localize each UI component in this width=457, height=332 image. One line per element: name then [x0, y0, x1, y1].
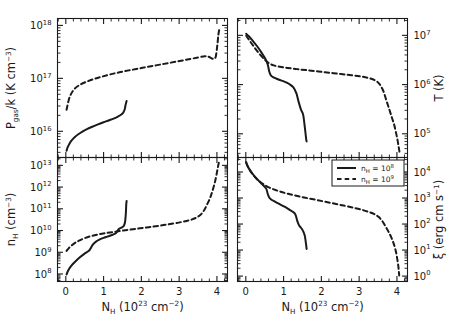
panel-density-ytick-label: 109 — [34, 246, 51, 258]
ylabel-density: nH (cm−3) — [4, 193, 20, 246]
panel-ionization-xtick-label: 2 — [318, 286, 324, 297]
panel-ionization-xtick-label: 4 — [394, 286, 400, 297]
panel-density-xtick-label: 3 — [176, 286, 182, 297]
panel-temperature-series-group — [246, 34, 399, 153]
panel-pressure-ytick-label: 1018 — [30, 19, 51, 31]
panel-pressure-series-2-dashed — [67, 30, 220, 110]
panel-ionization-ytick-label: 103 — [414, 191, 431, 203]
panel-density-series-2-dashed — [67, 161, 220, 251]
panel-pressure-x-ticks — [58, 19, 224, 158]
panel-density-ytick-label: 1012 — [30, 180, 51, 192]
panel-ionization-ytick-label: 101 — [414, 243, 431, 255]
ylabel-pressure: Pgas/k (K cm−3) — [4, 47, 20, 129]
panel-density: 108109101010111012101301234 — [30, 158, 227, 297]
panel-density-series-1-solid — [67, 201, 127, 275]
panel-pressure-y-ticks — [58, 25, 228, 152]
four-panel-figure: 1016101710181051061071081091010101110121… — [0, 0, 457, 332]
panel-density-xtick-label: 2 — [138, 286, 144, 297]
panel-pressure-series-group — [67, 30, 220, 151]
ylabel-temperature: T (K) — [432, 74, 446, 102]
panel-pressure-ytick-label: 1017 — [30, 72, 51, 84]
panel-density-x-ticks — [58, 158, 224, 282]
panel-temperature-x-ticks — [238, 19, 404, 158]
panel-density-xtick-label: 0 — [63, 286, 69, 297]
panel-density-y-ticks — [58, 159, 228, 281]
legend: nH = 108nH = 109 — [332, 160, 404, 186]
panel-density-ytick-label: 1010 — [30, 224, 51, 236]
panel-density-xtick-label: 4 — [214, 286, 220, 297]
panel-temperature: 105106107 — [238, 19, 431, 158]
panel-ionization-xtick-label: 0 — [243, 286, 249, 297]
panel-pressure-frame — [58, 19, 228, 158]
panel-ionization-ytick-label: 102 — [414, 217, 431, 229]
panel-pressure: 101610171018 — [30, 19, 227, 158]
panel-density-ytick-label: 1013 — [30, 159, 51, 171]
panel-temperature-ytick-label: 107 — [414, 29, 431, 41]
panel-density-ytick-label: 1011 — [30, 202, 51, 214]
panel-density-ytick-label: 108 — [34, 267, 51, 279]
panel-pressure-series-1-solid — [67, 101, 127, 151]
panel-density-frame — [58, 158, 228, 282]
panel-ionization-xtick-label: 1 — [280, 286, 286, 297]
xlabel-left: NH (1023 cm−2) — [101, 299, 183, 315]
xlabel-right: NH (1023 cm−2) — [281, 299, 363, 315]
panel-ionization-ytick-label: 100 — [414, 269, 431, 281]
panel-ionization-series-1-solid — [246, 162, 306, 249]
panel-temperature-ytick-label: 106 — [414, 78, 431, 90]
figure-container: 1016101710181051061071081091010101110121… — [0, 0, 457, 332]
ylabel-ionization: ξ (erg cm s−1) — [432, 180, 446, 259]
panel-temperature-series-2-dashed — [246, 36, 399, 153]
panel-ionization-xtick-label: 3 — [356, 286, 362, 297]
panel-ionization-ytick-label: 104 — [414, 165, 431, 177]
panel-pressure-ytick-label: 1016 — [30, 125, 51, 137]
panel-density-xtick-label: 1 — [100, 286, 106, 297]
panel-density-series-group — [67, 161, 220, 275]
panel-temperature-ytick-label: 105 — [414, 127, 431, 139]
